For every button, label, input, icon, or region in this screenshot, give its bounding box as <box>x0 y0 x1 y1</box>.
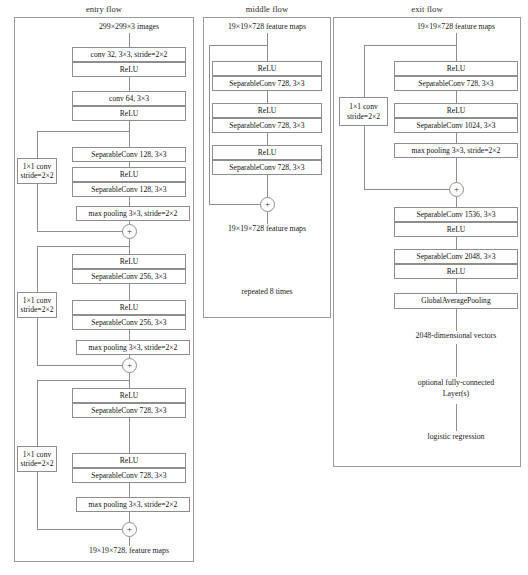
exit-shortcut-conv: 1×1 conv stride=2×2 <box>339 97 388 126</box>
connector-shortcut-join-1 <box>37 231 130 232</box>
middle-box-relu-3: ReLU <box>212 145 322 160</box>
diagram-canvas: entry flow middle flow exit flow 299×299… <box>0 0 528 575</box>
connector <box>456 133 457 143</box>
entry-shortcut-conv-3-line2: stride=2×2 <box>20 459 53 468</box>
exit-box-sepconv1024: SeparableConv 1024, 3×3 <box>394 118 518 133</box>
connector <box>129 512 130 522</box>
exit-box-relu-2: ReLU <box>394 103 518 118</box>
connector <box>456 91 457 103</box>
connector <box>456 279 457 293</box>
middle-box-relu-1: ReLU <box>212 61 322 76</box>
exit-optional-fc-line1: optional fully-connected <box>394 378 518 388</box>
entry-box-relu-3: ReLU <box>72 167 186 182</box>
entry-box-relu-5: ReLU <box>72 300 186 315</box>
connector <box>267 33 268 61</box>
entry-box-maxpool-1: max pooling 3×3, stride=2×2 <box>76 206 190 221</box>
exit-optional-fc-line2: Layer(s) <box>394 389 518 399</box>
entry-box-sepconv728-b: SeparableConv 728, 3×3 <box>72 468 186 483</box>
connector-shortcut-tap-2 <box>37 246 130 247</box>
exit-logistic-regression-label: logistic regression <box>394 432 518 442</box>
connector <box>267 91 268 103</box>
connector-shortcut-join-2 <box>37 365 130 366</box>
middle-box-sepconv-3: SeparableConv 728, 3×3 <box>212 160 322 175</box>
exit-box-sepconv2048: SeparableConv 2048, 3×3 <box>394 249 518 264</box>
connector <box>37 318 38 365</box>
connector <box>456 158 457 182</box>
entry-box-conv32: conv 32, 3×3, stride=2×2 <box>72 47 186 62</box>
connector <box>37 472 38 529</box>
exit-box-maxpool: max pooling 3×3, stride=2×2 <box>394 143 518 158</box>
entry-box-sepconv128-b: SeparableConv 128, 3×3 <box>72 182 186 197</box>
connector-shortcut-join-3 <box>37 529 130 530</box>
entry-box-maxpool-2: max pooling 3×3, stride=2×2 <box>76 340 190 355</box>
connector-shortcut-join <box>364 189 457 190</box>
connector <box>456 197 457 207</box>
connector <box>456 404 457 431</box>
exit-box-sepconv1536: SeparableConv 1536, 3×3 <box>394 207 518 222</box>
entry-shortcut-conv-3: 1×1 conv stride=2×2 <box>17 446 57 472</box>
connector <box>456 33 457 61</box>
entry-box-relu-1: ReLU <box>72 62 186 77</box>
connector-shortcut-tap-3 <box>37 380 130 381</box>
connector <box>129 483 130 497</box>
entry-shortcut-conv-3-line1: 1×1 conv <box>23 450 52 459</box>
exit-box-global-average-pooling: GlobalAveragePooling <box>394 293 518 309</box>
entry-box-sepconv256-a: SeparableConv 256, 3×3 <box>72 269 186 284</box>
exit-shortcut-conv-line1: 1×1 conv <box>349 102 378 111</box>
entry-box-maxpool-3: max pooling 3×3, stride=2×2 <box>76 497 190 512</box>
entry-shortcut-conv-2-line1: 1×1 conv <box>23 296 52 305</box>
entry-shortcut-conv-1: 1×1 conv stride=2×2 <box>17 158 57 184</box>
connector <box>129 33 130 47</box>
exit-input-label: 19×19×728 feature maps <box>394 22 518 32</box>
middle-flow-title: middle flow <box>203 4 331 14</box>
connector <box>267 175 268 197</box>
middle-box-sepconv-1: SeparableConv 728, 3×3 <box>212 76 322 91</box>
entry-shortcut-conv-1-line2: stride=2×2 <box>20 171 53 180</box>
middle-box-relu-2: ReLU <box>212 103 322 118</box>
exit-shortcut-conv-line2: stride=2×2 <box>347 112 380 121</box>
entry-output-label: 19×19×728, feature maps <box>62 546 196 556</box>
entry-box-sepconv128-a: SeparableConv 128, 3×3 <box>72 147 186 162</box>
connector <box>129 284 130 300</box>
entry-input-label: 299×299×3 images <box>72 22 186 32</box>
connector <box>129 77 130 91</box>
middle-merge <box>260 197 275 212</box>
entry-box-relu-4: ReLU <box>72 254 186 269</box>
connector-shortcut-tap-1 <box>37 131 130 132</box>
connector <box>456 309 457 331</box>
connector <box>129 537 130 546</box>
exit-box-relu-3: ReLU <box>394 222 518 237</box>
middle-box-sepconv-2: SeparableConv 728, 3×3 <box>212 118 322 133</box>
exit-box-relu-4: ReLU <box>394 264 518 279</box>
connector <box>37 246 38 292</box>
exit-flow-title: exit flow <box>333 4 521 14</box>
entry-shortcut-conv-2: 1×1 conv stride=2×2 <box>17 292 57 318</box>
connector <box>456 344 457 377</box>
entry-box-sepconv256-b: SeparableConv 256, 3×3 <box>72 315 186 330</box>
connector <box>129 418 130 453</box>
entry-shortcut-conv-2-line2: stride=2×2 <box>20 305 53 314</box>
entry-box-relu-7: ReLU <box>72 453 186 468</box>
connector <box>267 212 268 224</box>
connector-shortcut-tap <box>364 45 457 46</box>
connector <box>37 131 38 158</box>
entry-shortcut-conv-1-line1: 1×1 conv <box>23 162 52 171</box>
connector <box>267 133 268 145</box>
connector <box>364 126 365 189</box>
connector <box>37 380 38 446</box>
entry-box-conv64: conv 64, 3×3 <box>72 91 186 106</box>
exit-merge <box>449 182 464 197</box>
connector <box>129 121 130 147</box>
entry-merge-2 <box>122 358 137 373</box>
connector <box>129 330 130 340</box>
middle-repeat-label: repeated 8 times <box>205 287 329 297</box>
connector <box>456 237 457 249</box>
entry-merge-3 <box>122 522 137 537</box>
connector <box>37 184 38 231</box>
connector <box>209 45 210 204</box>
connector <box>364 45 365 97</box>
connector-shortcut-tap <box>209 45 268 46</box>
middle-output-label: 19×19×728 feature maps <box>205 224 329 234</box>
middle-input-label: 19×19×728 feature maps <box>205 22 329 32</box>
exit-vector-label: 2048-dimensional vectors <box>394 331 518 341</box>
